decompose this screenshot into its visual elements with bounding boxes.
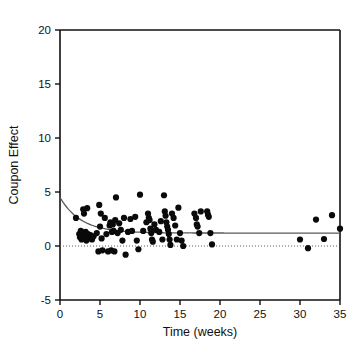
data-point: [206, 214, 212, 220]
x-tick-label: 0: [57, 308, 63, 320]
data-point: [159, 236, 165, 242]
data-point: [167, 236, 173, 242]
data-point: [97, 223, 103, 229]
x-tick-label: 5: [97, 308, 103, 320]
data-point: [150, 239, 156, 245]
data-point: [161, 192, 167, 198]
data-point: [103, 231, 109, 237]
data-point: [337, 226, 343, 232]
figure-background: [0, 0, 362, 357]
data-point: [81, 211, 87, 217]
data-point: [167, 242, 173, 248]
data-point: [193, 215, 199, 221]
data-point: [180, 243, 186, 249]
data-point: [102, 215, 108, 221]
data-point: [297, 236, 303, 242]
data-point: [123, 252, 129, 258]
x-tick-label: 15: [174, 308, 187, 320]
data-point: [329, 212, 335, 218]
y-tick-label: 15: [38, 78, 51, 90]
x-tick-label: 25: [254, 308, 267, 320]
data-point: [158, 218, 164, 224]
data-point: [156, 229, 162, 235]
data-point: [116, 220, 122, 226]
data-point: [207, 230, 213, 236]
data-point: [198, 208, 204, 214]
data-point: [175, 205, 181, 211]
x-tick-label: 35: [334, 308, 347, 320]
y-tick-label: 0: [45, 240, 51, 252]
data-point: [99, 247, 105, 253]
x-tick-label: 30: [294, 308, 307, 320]
x-axis-title: Time (weeks): [163, 325, 238, 339]
data-point: [129, 228, 135, 234]
data-point: [179, 238, 185, 244]
data-point: [151, 221, 157, 227]
y-tick-label: -5: [41, 294, 51, 306]
data-point: [305, 245, 311, 251]
data-point: [84, 205, 90, 211]
y-tick-label: 10: [38, 132, 51, 144]
x-tick-label: 10: [134, 308, 147, 320]
data-point: [209, 241, 215, 247]
data-point: [94, 230, 100, 236]
data-point: [195, 223, 201, 229]
data-point: [321, 236, 327, 242]
data-point: [96, 202, 102, 208]
scatter-plot-figure: -50510152005101520253035Time (weeks)Coup…: [0, 0, 362, 357]
data-point: [171, 215, 177, 221]
data-point: [73, 215, 79, 221]
data-point: [163, 213, 169, 219]
y-tick-label: 5: [45, 186, 51, 198]
y-axis-title: Coupon Effect: [7, 125, 21, 205]
data-point: [113, 194, 119, 200]
data-point: [132, 214, 138, 220]
data-point: [111, 248, 117, 254]
y-tick-label: 20: [38, 24, 51, 36]
data-point: [118, 227, 124, 233]
data-point: [119, 238, 125, 244]
data-point: [166, 231, 172, 237]
data-point: [172, 222, 178, 228]
data-point: [177, 230, 183, 236]
data-point: [137, 192, 143, 198]
data-point: [147, 217, 153, 223]
chart-canvas: -50510152005101520253035Time (weeks)Coup…: [0, 0, 362, 357]
data-point: [313, 216, 319, 222]
data-point: [134, 238, 140, 244]
data-point: [196, 230, 202, 236]
data-point: [135, 246, 141, 252]
data-point: [140, 228, 146, 234]
data-point: [99, 235, 105, 241]
x-tick-label: 20: [214, 308, 227, 320]
data-point: [121, 215, 127, 221]
